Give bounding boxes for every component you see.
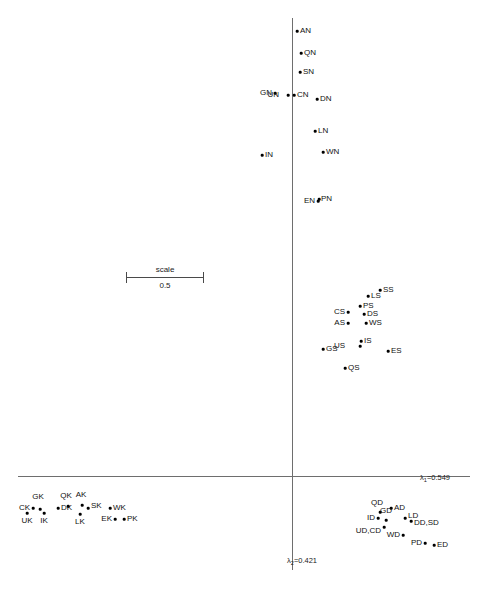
point-label-id: ID <box>367 514 375 522</box>
point-label-qk: QK <box>60 492 72 500</box>
data-point-ak <box>81 504 84 507</box>
scale-bar-line <box>126 277 204 278</box>
data-point-an <box>296 30 299 33</box>
point-label-cs: CS <box>334 308 345 316</box>
data-point-ed <box>433 544 436 547</box>
lambda1-value: =0.549 <box>427 473 450 482</box>
data-point-pk <box>123 518 126 521</box>
point-label-uk: UK <box>21 517 32 525</box>
data-point-us <box>359 345 362 348</box>
data-point-as <box>347 322 350 325</box>
data-point-dk <box>57 507 60 510</box>
data-point-ek <box>114 518 117 521</box>
point-label-ik: IK <box>40 517 48 525</box>
point-label-dn: DN <box>320 95 332 103</box>
point-label-es: ES <box>391 347 402 355</box>
data-point-is <box>360 340 363 343</box>
point-label-qs: QS <box>348 364 360 372</box>
point-label-un: UN <box>267 91 279 99</box>
data-point-wk <box>109 507 112 510</box>
data-point-cn <box>293 94 296 97</box>
point-label-ws: WS <box>369 319 382 327</box>
horizontal-axis-label: λ1=0.549 <box>420 473 450 482</box>
horizontal-axis-line <box>18 476 470 477</box>
data-point-lk <box>79 513 82 516</box>
data-point-qk <box>67 505 70 508</box>
data-point-ws <box>365 322 368 325</box>
point-label-pn: PN <box>321 195 332 203</box>
point-label-wn: WN <box>326 148 339 156</box>
point-label-an: AN <box>300 27 311 35</box>
data-point-qs <box>344 367 347 370</box>
data-point-un <box>287 94 290 97</box>
data-point-ld <box>404 517 407 520</box>
data-point-pd <box>424 542 427 545</box>
data-point-id <box>377 517 380 520</box>
point-label-pd: PD <box>411 539 422 547</box>
scale-bar-caption: scale <box>126 265 204 274</box>
data-point-pn <box>318 198 321 201</box>
data-point-wn <box>322 151 325 154</box>
point-label-gk: GK <box>32 493 44 501</box>
data-point-es <box>387 350 390 353</box>
point-label-wd: WD <box>387 531 400 539</box>
point-label-wk: WK <box>113 504 126 512</box>
data-point-qn <box>300 52 303 55</box>
lambda2-value: =0.421 <box>294 556 317 565</box>
data-point-ln <box>314 130 317 133</box>
data-point-sk <box>87 507 90 510</box>
data-point-ck <box>32 507 35 510</box>
point-label-ck: CK <box>19 504 30 512</box>
point-label-us: US <box>334 342 345 350</box>
point-label-ad: AD <box>394 504 405 512</box>
point-label-ed: ED <box>437 541 448 549</box>
data-point-ds <box>363 313 366 316</box>
point-label-lk: LK <box>75 518 85 526</box>
point-label-ln: LN <box>318 127 328 135</box>
point-label-ud-cd: UD,CD <box>356 527 381 535</box>
point-label-ds: DS <box>367 310 378 318</box>
point-label-ek: EK <box>101 515 112 523</box>
data-point-dd-sd <box>410 520 413 523</box>
point-label-dd-sd: DD,SD <box>414 519 439 527</box>
scale-bar-value: 0.5 <box>126 281 204 290</box>
point-label-qn: QN <box>304 49 316 57</box>
point-label-en: EN <box>304 197 315 205</box>
lambda1-subscript: 1 <box>424 477 427 483</box>
data-point-in <box>261 154 264 157</box>
point-label-ls: LS <box>371 292 381 300</box>
point-label-sk: SK <box>91 502 102 510</box>
point-label-pk: PK <box>127 515 138 523</box>
data-point-wd <box>402 534 405 537</box>
scatter-plot-canvas: λ1=0.549 λ2=0.421 scale 0.5 ANQNSNGNUNCN… <box>0 0 488 591</box>
vertical-axis-line <box>292 18 293 570</box>
data-point-dn <box>316 98 319 101</box>
data-point-gk <box>39 508 42 511</box>
vertical-axis-label: λ2=0.421 <box>287 556 317 565</box>
point-label-ss: SS <box>383 286 394 294</box>
lambda2-subscript: 2 <box>291 560 294 566</box>
data-point-ud-cd <box>383 526 386 529</box>
point-label-gd: GD <box>380 507 392 515</box>
point-label-in: IN <box>265 151 273 159</box>
data-point-gs <box>322 348 325 351</box>
point-label-cn: CN <box>297 91 309 99</box>
data-point-gd <box>385 519 388 522</box>
data-point-cs <box>347 311 350 314</box>
data-point-sn <box>299 71 302 74</box>
data-point-ls <box>367 295 370 298</box>
data-point-ik <box>43 512 46 515</box>
data-point-ps <box>359 305 362 308</box>
data-point-uk <box>26 512 29 515</box>
point-label-sn: SN <box>303 68 314 76</box>
point-label-is: IS <box>364 337 372 345</box>
point-label-ak: AK <box>76 491 87 499</box>
point-label-as: AS <box>334 319 345 327</box>
